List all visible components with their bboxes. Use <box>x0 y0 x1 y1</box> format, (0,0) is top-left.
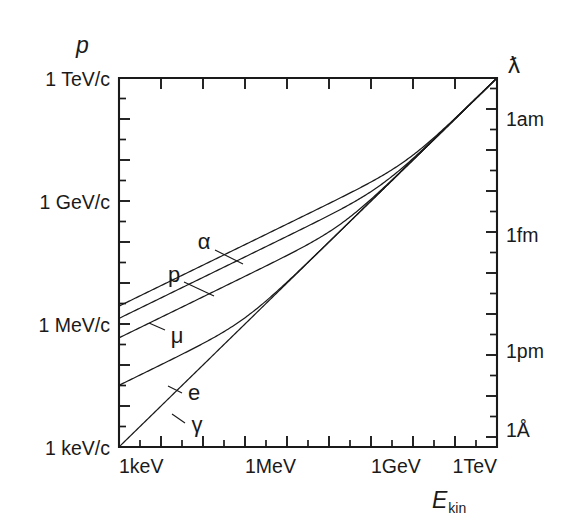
x-axis-tick-label-1mev: 1MeV <box>245 455 296 477</box>
momentum-vs-kinetic-energy-chart: 1 TeV/c 1 GeV/c 1 MeV/c 1 keV/c p 1am 1f… <box>0 0 581 531</box>
y2-axis-title: ƛ <box>508 51 520 78</box>
y2-axis-tick-label-1pm: 1pm <box>506 340 544 362</box>
y-axis-tick-label-1kev: 1 keV/c <box>45 437 110 459</box>
x-axis-title-subscript: kin <box>448 500 466 516</box>
curve-label-electron: e <box>188 380 200 405</box>
x-axis-title: Ekin <box>432 487 466 516</box>
curve-label-muon: μ <box>171 323 184 348</box>
y-axis-tick-label-1tev: 1 TeV/c <box>45 68 110 90</box>
curve-label-photon: γ <box>192 412 203 437</box>
y-axis-tick-label-1gev: 1 GeV/c <box>40 191 111 213</box>
y2-axis-tick-label-1angstrom: 1Å <box>506 419 530 441</box>
x-axis-tick-label-1kev: 1keV <box>119 455 163 477</box>
x-axis-tick-label-1gev: 1GeV <box>371 455 421 477</box>
y2-axis-tick-label-1am: 1am <box>506 108 544 130</box>
y2-axis-tick-label-1fm: 1fm <box>506 224 539 246</box>
x-axis-tick-label-1tev: 1TeV <box>453 455 497 477</box>
curve-label-proton: p <box>168 262 180 287</box>
y-axis-tick-label-1mev: 1 MeV/c <box>38 314 110 336</box>
x-axis-title-main: E <box>432 487 448 513</box>
curve-label-alpha: α <box>198 229 211 254</box>
y-axis-title: p <box>75 32 89 58</box>
